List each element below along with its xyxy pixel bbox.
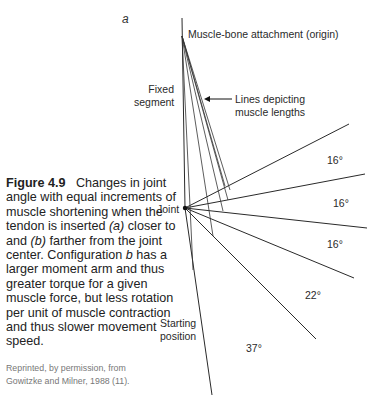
- angle-label: 22°: [305, 289, 321, 302]
- ray-3: [185, 208, 367, 228]
- starting-position-line: [185, 208, 212, 395]
- angle-label: 16°: [327, 238, 343, 251]
- credit-line: Reprinted, by permission, from Gowitzke …: [6, 362, 130, 387]
- angle-label: 37°: [246, 342, 262, 355]
- fixed-segment-label: Fixed segment: [134, 83, 174, 108]
- figure-caption: Figure 4.9 Changes in joint angle with e…: [6, 176, 186, 349]
- arrow-icon: [204, 96, 210, 102]
- angle-label: 16°: [327, 154, 343, 167]
- ray-1: [185, 124, 349, 208]
- muscle-lines-label: Lines depicting muscle lengths: [235, 93, 305, 118]
- origin-label: Muscle-bone attachment (origin): [188, 28, 339, 41]
- angle-label: 16°: [333, 197, 349, 210]
- ray-5: [185, 208, 316, 339]
